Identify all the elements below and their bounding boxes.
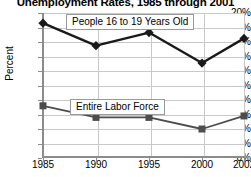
data-point-teens-1985: [38, 19, 47, 28]
data-point-labor-1985: [40, 102, 47, 109]
unemployment-rates-chart: Unemployment Rates, 1985 through 2001 Pe…: [0, 0, 251, 177]
series-label-teens: People 16 to 19 Years Old: [66, 14, 194, 30]
data-point-labor-2002: [241, 112, 248, 119]
data-point-teens-1990: [91, 41, 100, 50]
data-point-labor-2000: [199, 126, 206, 133]
series-label-labor: Entire Labor Force: [70, 99, 165, 115]
